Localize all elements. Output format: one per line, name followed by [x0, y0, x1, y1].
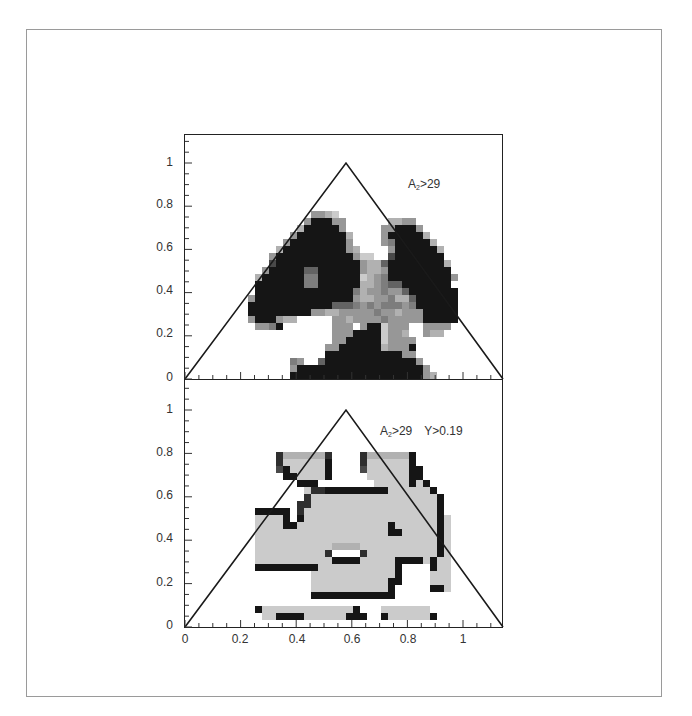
top-ytick-1: 1 — [133, 156, 173, 168]
xtick-1: 1 — [448, 633, 478, 645]
bottom-ytick-0: 0 — [133, 619, 173, 631]
top-ytick-0.8: 0.8 — [133, 198, 173, 210]
top-ytick-0.4: 0.4 — [133, 284, 173, 296]
annotation-symbol: A — [380, 424, 388, 438]
bottom-annotation: A2>29Y>0.19 — [380, 424, 463, 438]
top-ytick-0.6: 0.6 — [133, 241, 173, 253]
annotation-text: >29 — [392, 424, 412, 438]
xtick-0.8: 0.8 — [393, 633, 423, 645]
annotation-symbol: A — [408, 177, 416, 191]
top-ytick-0.2: 0.2 — [133, 327, 173, 339]
bottom-ytick-0.2: 0.2 — [133, 576, 173, 588]
annotation-cut: Y>0.19 — [424, 424, 462, 438]
top-annotation: A2>29 — [408, 177, 440, 191]
xtick-0.4: 0.4 — [282, 633, 312, 645]
xtick-0: 0 — [170, 633, 200, 645]
triangle-overlays — [0, 0, 692, 716]
bottom-ytick-0.8: 0.8 — [133, 446, 173, 458]
annotation-text: >29 — [420, 177, 440, 191]
xtick-0.6: 0.6 — [337, 633, 367, 645]
bottom-ytick-1: 1 — [133, 403, 173, 415]
top-triangle — [185, 163, 503, 379]
top-ytick-0: 0 — [133, 371, 173, 383]
xtick-0.2: 0.2 — [225, 633, 255, 645]
bottom-triangle — [185, 410, 503, 627]
bottom-ytick-0.4: 0.4 — [133, 532, 173, 544]
bottom-ytick-0.6: 0.6 — [133, 489, 173, 501]
